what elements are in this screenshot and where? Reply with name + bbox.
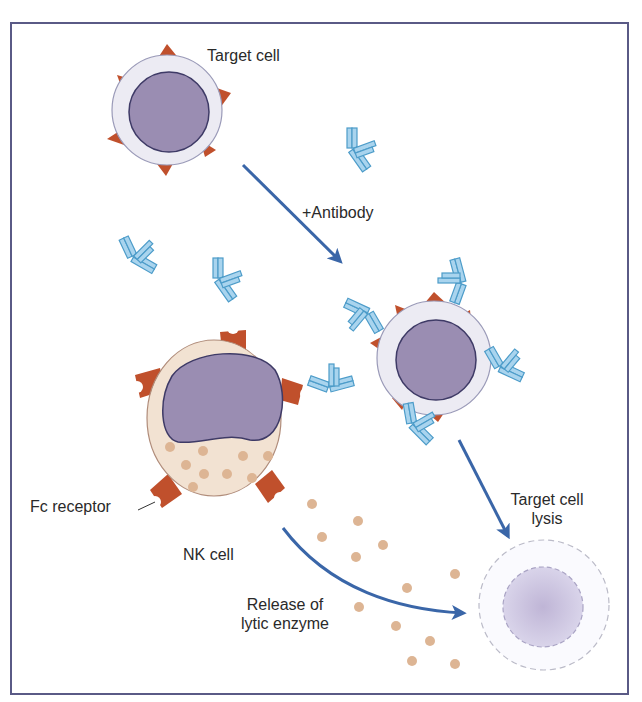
released-enzyme-granules — [307, 499, 460, 669]
nk-cell — [131, 322, 312, 508]
antibody-icon — [347, 128, 378, 172]
label-release: Release of lytic enzyme — [225, 595, 345, 633]
antibody-icon — [485, 336, 534, 389]
label-lysis: Target cell lysis — [497, 490, 597, 528]
antibody-icon — [213, 258, 244, 302]
label-lysis-line1: Target cell — [497, 490, 597, 509]
label-nk-cell: NK cell — [183, 545, 234, 564]
label-antibody: +Antibody — [302, 203, 374, 222]
label-release-line1: Release of — [225, 595, 345, 614]
antibody-icon — [308, 356, 360, 400]
label-target-cell: Target cell — [207, 46, 280, 65]
label-lysis-line2: lysis — [497, 509, 597, 528]
antibody-icon — [335, 290, 384, 343]
label-release-line2: lytic enzyme — [225, 614, 345, 633]
coated-target-cell — [370, 292, 493, 422]
lysed-target-cell — [479, 540, 609, 670]
label-fc-receptor: Fc receptor — [30, 497, 111, 516]
antibody-icon — [119, 227, 165, 280]
